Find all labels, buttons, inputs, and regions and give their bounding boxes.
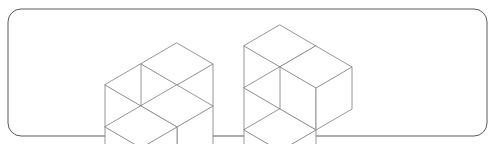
isometric-scene-svg [0, 0, 494, 144]
figure-canvas [0, 0, 494, 144]
